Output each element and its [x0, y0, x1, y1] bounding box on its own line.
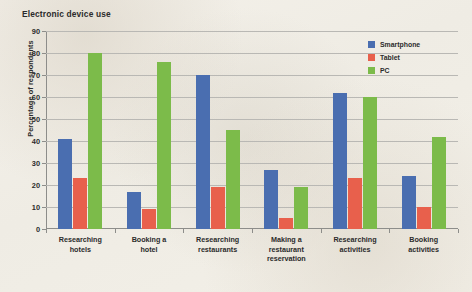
- y-tick-label: 30: [32, 159, 40, 168]
- chart-title: Electronic device use: [22, 9, 111, 19]
- gridline: [46, 141, 458, 142]
- y-tick-mark: [42, 75, 46, 76]
- bar-smartphone[interactable]: [196, 75, 210, 229]
- gridline: [46, 31, 458, 32]
- legend-item-pc[interactable]: PC: [368, 64, 420, 77]
- legend-label: PC: [380, 67, 390, 74]
- x-category-label-line: reservation: [248, 254, 324, 264]
- legend-item-smartphone[interactable]: Smartphone: [368, 38, 420, 51]
- bar-smartphone[interactable]: [58, 139, 72, 229]
- y-tick-label: 40: [32, 137, 40, 146]
- x-category-label-line: hotel: [111, 245, 187, 255]
- x-tick-mark: [183, 229, 184, 233]
- bar-smartphone[interactable]: [127, 192, 141, 229]
- gridline: [46, 97, 458, 98]
- y-tick-label: 50: [32, 115, 40, 124]
- x-category-label-line: Booking: [386, 235, 462, 245]
- y-tick-mark: [42, 163, 46, 164]
- x-tick-mark: [252, 229, 253, 233]
- x-tick-mark: [389, 229, 390, 233]
- y-tick-mark: [42, 31, 46, 32]
- legend-swatch-icon: [368, 54, 375, 61]
- bar-group: [58, 31, 102, 229]
- x-tick-mark: [46, 229, 47, 233]
- y-tick-label: 90: [32, 27, 40, 36]
- x-tick-mark: [458, 229, 459, 233]
- legend-label: Tablet: [380, 54, 400, 61]
- bar-pc[interactable]: [226, 130, 240, 229]
- legend-swatch-icon: [368, 67, 375, 74]
- y-tick-mark: [42, 119, 46, 120]
- bar-group: [264, 31, 308, 229]
- x-category-label: Researchingactivities: [317, 235, 393, 254]
- bar-pc[interactable]: [88, 53, 102, 229]
- x-category-label-line: hotels: [42, 245, 118, 255]
- bar-tablet[interactable]: [417, 207, 431, 229]
- y-tick-label: 10: [32, 203, 40, 212]
- legend-item-tablet[interactable]: Tablet: [368, 51, 420, 64]
- legend-swatch-icon: [368, 41, 375, 48]
- bar-tablet[interactable]: [211, 187, 225, 229]
- y-tick-mark: [42, 141, 46, 142]
- x-category-label-line: Booking a: [111, 235, 187, 245]
- y-tick-label: 60: [32, 93, 40, 102]
- bar-pc[interactable]: [157, 62, 171, 229]
- bar-group: [196, 31, 240, 229]
- bar-tablet[interactable]: [73, 178, 87, 229]
- x-category-label-line: restaurants: [180, 245, 256, 255]
- x-category-label: Researchinghotels: [42, 235, 118, 254]
- x-category-label-line: Researching: [317, 235, 393, 245]
- x-tick-mark: [115, 229, 116, 233]
- bar-pc[interactable]: [363, 97, 377, 229]
- x-category-label-line: activities: [386, 245, 462, 255]
- x-category-label: Booking ahotel: [111, 235, 187, 254]
- x-category-label-line: activities: [317, 245, 393, 255]
- x-category-label-line: Researching: [42, 235, 118, 245]
- x-category-label-line: Making a: [248, 235, 324, 245]
- legend-label: Smartphone: [380, 41, 420, 48]
- bar-group: [127, 31, 171, 229]
- y-tick-mark: [42, 97, 46, 98]
- gridline: [46, 207, 458, 208]
- y-tick-mark: [42, 185, 46, 186]
- gridline: [46, 119, 458, 120]
- y-tick-label: 20: [32, 181, 40, 190]
- y-tick-mark: [42, 53, 46, 54]
- bar-smartphone[interactable]: [402, 176, 416, 229]
- bar-pc[interactable]: [294, 187, 308, 229]
- y-tick-mark: [42, 207, 46, 208]
- gridline: [46, 185, 458, 186]
- y-tick-label: 80: [32, 49, 40, 58]
- bar-tablet[interactable]: [279, 218, 293, 229]
- x-category-label-line: Researching: [180, 235, 256, 245]
- chart-legend: SmartphoneTabletPC: [368, 38, 420, 77]
- bar-tablet[interactable]: [142, 209, 156, 229]
- y-tick-label: 70: [32, 71, 40, 80]
- bar-tablet[interactable]: [348, 178, 362, 229]
- x-category-label-line: restaurant: [248, 245, 324, 255]
- x-category-label: Researchingrestaurants: [180, 235, 256, 254]
- bar-smartphone[interactable]: [264, 170, 278, 229]
- gridline: [46, 163, 458, 164]
- x-category-label: Making arestaurantreservation: [248, 235, 324, 264]
- x-category-label: Bookingactivities: [386, 235, 462, 254]
- bar-pc[interactable]: [432, 137, 446, 229]
- x-tick-mark: [321, 229, 322, 233]
- y-tick-label: 0: [36, 225, 40, 234]
- bar-smartphone[interactable]: [333, 93, 347, 229]
